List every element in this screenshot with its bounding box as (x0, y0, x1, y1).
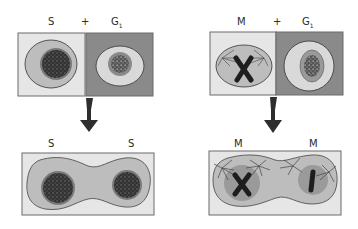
g1-phase-cell (284, 41, 334, 91)
m-m-fused-box (209, 151, 341, 215)
s-s-fused-box (22, 153, 154, 215)
m-phase-cell (216, 45, 272, 87)
arrow-down-icon (80, 98, 98, 132)
s-g1-top-box (18, 33, 153, 96)
cell-fusion-diagram (0, 0, 358, 229)
arrow-down-icon (264, 97, 282, 133)
chromosome-single (311, 172, 313, 190)
m-g1-top-box (210, 32, 343, 95)
s-phase-cell (25, 40, 77, 88)
g1-phase-cell (96, 46, 144, 86)
